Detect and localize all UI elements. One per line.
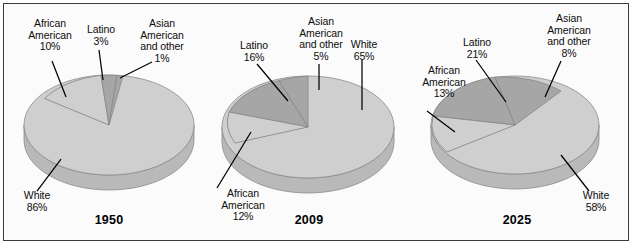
pie-panel-2009: Latino 16% Asian American and other 5% W… xyxy=(204,4,414,242)
label-asian-other-2025: Asian American and other 8% xyxy=(531,13,607,59)
leader-line-asian-other xyxy=(120,62,152,78)
label-african-american-2025: African American 13% xyxy=(409,65,479,100)
label-latino-2009: Latino 16% xyxy=(226,40,282,63)
year-label-1950: 1950 xyxy=(59,213,159,227)
year-label-2025: 2025 xyxy=(467,213,567,227)
label-latino-1950: Latino 3% xyxy=(76,24,126,47)
label-white-2025: White 58% xyxy=(569,190,623,213)
year-label-2009: 2009 xyxy=(259,213,359,227)
label-white-1950: White 86% xyxy=(6,190,68,213)
pie-panel-1950: African American 10% Latino 3% Asian Ame… xyxy=(4,4,209,242)
pie-panel-2025: Latino 21% Asian American and other 8% A… xyxy=(409,4,630,242)
label-latino-2025: Latino 21% xyxy=(449,37,505,60)
label-asian-other-1950: Asian American and other 1% xyxy=(126,18,198,64)
label-white-2009: White 65% xyxy=(341,39,387,62)
figure-frame: African American 10% Latino 3% Asian Ame… xyxy=(3,3,629,241)
